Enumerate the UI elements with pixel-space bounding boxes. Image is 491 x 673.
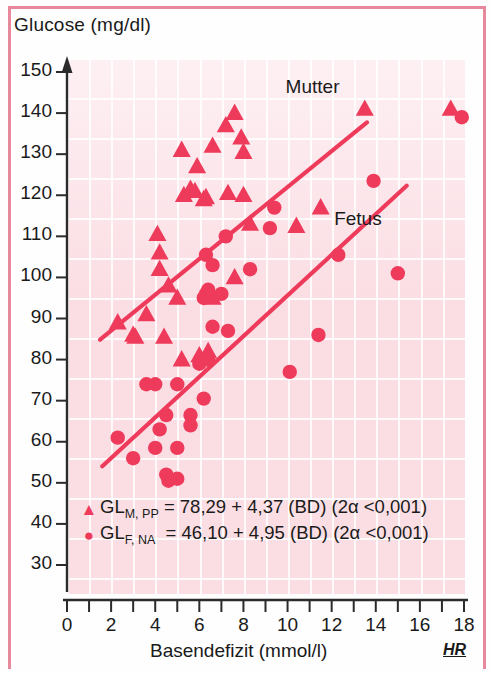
x-tick-label: 2 [96, 614, 126, 636]
data-point-mutter [173, 350, 191, 366]
data-point-mutter [232, 128, 250, 144]
figure-scatter-plot: Glucose (mg/dl) Basendefizit (mmol/l) HR… [0, 0, 491, 673]
data-point-fetus [111, 430, 125, 444]
series-label-fetus: Fetus [334, 208, 382, 230]
data-point-mutter [219, 184, 237, 200]
x-tick-label: 14 [361, 614, 391, 636]
data-point-fetus [391, 266, 405, 280]
data-point-mutter [234, 143, 252, 159]
legend-fetus-body: = 46,10 + 4,95 (BD) (2α <0,001) [166, 522, 429, 543]
data-points-mutter [109, 99, 460, 366]
legend-equation-fetus: GLF, NA = 46,10 + 4,95 (BD) (2α <0,001) [100, 520, 429, 553]
y-tick-label: 100 [8, 264, 52, 286]
data-point-mutter [312, 198, 330, 214]
data-point-fetus [148, 377, 162, 391]
y-tick-label: 70 [8, 388, 52, 410]
legend-row-fetus: ● GLF, NA = 46,10 + 4,95 (BD) (2α <0,001… [78, 523, 429, 549]
data-point-fetus [170, 441, 184, 455]
y-tick-label: 80 [8, 347, 52, 369]
x-tick-label: 16 [405, 614, 435, 636]
data-point-fetus [221, 324, 235, 338]
y-tick-label: 60 [8, 429, 52, 451]
triangle-marker-icon: ▲ [78, 497, 100, 523]
circle-marker-icon: ● [78, 523, 100, 549]
data-point-mutter [199, 342, 217, 358]
data-point-fetus [170, 377, 184, 391]
legend-fetus-subscript: F, NA [125, 532, 156, 546]
y-tick-label: 120 [8, 182, 52, 204]
legend-mutter-subscript: M, PP [125, 506, 159, 520]
data-point-fetus [183, 408, 197, 422]
data-point-fetus [366, 174, 380, 188]
data-point-mutter [151, 260, 169, 276]
axes-and-data [0, 0, 491, 673]
data-point-fetus [219, 229, 233, 243]
data-point-mutter [204, 136, 222, 152]
y-tick-label: 110 [8, 223, 52, 245]
data-point-mutter [148, 225, 166, 241]
y-tick-label: 140 [8, 100, 52, 122]
data-point-fetus [170, 472, 184, 486]
y-tick-label: 50 [8, 470, 52, 492]
data-point-fetus [197, 391, 211, 405]
data-point-fetus [243, 262, 257, 276]
data-point-mutter [234, 186, 252, 202]
data-point-fetus [159, 408, 173, 422]
data-point-fetus [152, 422, 166, 436]
data-point-fetus [311, 328, 325, 342]
data-point-fetus [205, 320, 219, 334]
regression-lines [100, 122, 407, 466]
y-tick-label: 130 [8, 141, 52, 163]
data-points-fetus [111, 110, 469, 488]
x-tick-label: 12 [317, 614, 347, 636]
data-point-mutter [442, 99, 460, 115]
series-label-mutter: Mutter [286, 76, 340, 98]
legend: ▲ GLM, PP = 78,29 + 4,37 (BD) (2α <0,001… [78, 497, 429, 549]
data-point-mutter [188, 157, 206, 173]
y-tick-label: 90 [8, 306, 52, 328]
x-axis-tick-marks [67, 600, 464, 612]
data-point-fetus [205, 258, 219, 272]
x-tick-label: 0 [52, 614, 82, 636]
y-axis-arrow [62, 56, 73, 73]
y-tick-label: 150 [8, 59, 52, 81]
x-tick-label: 4 [140, 614, 170, 636]
y-axis-tick-marks [56, 72, 67, 565]
legend-fetus-name: GL [100, 522, 125, 543]
x-tick-label: 18 [449, 614, 479, 636]
data-point-mutter [151, 243, 169, 259]
legend-mutter-name: GL [100, 496, 125, 517]
data-point-mutter [356, 99, 374, 115]
data-point-fetus [267, 200, 281, 214]
data-point-fetus [331, 248, 345, 262]
data-point-fetus [148, 441, 162, 455]
data-point-fetus [263, 221, 277, 235]
legend-mutter-body: = 78,29 + 4,37 (BD) (2α <0,001) [164, 496, 427, 517]
x-tick-label: 6 [184, 614, 214, 636]
x-tick-label: 8 [228, 614, 258, 636]
data-point-fetus [283, 365, 297, 379]
data-point-fetus [126, 451, 140, 465]
x-tick-label: 10 [273, 614, 303, 636]
data-point-mutter [226, 268, 244, 284]
data-point-mutter [287, 217, 305, 233]
y-tick-label: 30 [8, 552, 52, 574]
data-point-mutter [173, 141, 191, 157]
data-point-mutter [226, 104, 244, 120]
y-tick-label: 40 [8, 511, 52, 533]
data-point-mutter [155, 327, 173, 343]
